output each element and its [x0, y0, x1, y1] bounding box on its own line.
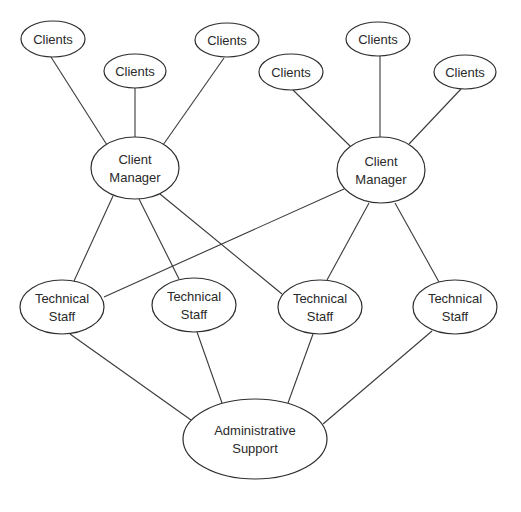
node-label: Support — [232, 441, 278, 456]
node-label: Clients — [445, 65, 485, 80]
node-layer: ClientsClientsClientsClientsClientsClien… — [20, 21, 497, 479]
node-label: Clients — [207, 33, 247, 48]
node-technical-staff-t3: TechnicalStaff — [278, 280, 362, 334]
node-administrative-support-admin: AdministrativeSupport — [183, 399, 327, 479]
node-clients-c6: Clients — [434, 55, 496, 89]
node-clients-c3: Clients — [195, 23, 259, 57]
edge-c3-to-cm1 — [163, 58, 224, 145]
edge-c6-to-cm2 — [409, 89, 461, 144]
edge-c1-to-cm1 — [51, 57, 107, 145]
network-diagram: ClientsClientsClientsClientsClientsClien… — [0, 0, 521, 512]
edge-c4-to-cm2 — [293, 90, 350, 146]
node-label: Manager — [109, 170, 161, 185]
node-label: Technical — [293, 291, 347, 306]
node-label: Technical — [428, 291, 482, 306]
node-clients-c2: Clients — [104, 54, 166, 88]
node-clients-c1: Clients — [21, 21, 85, 57]
node-ellipse — [278, 280, 362, 334]
node-label: Clients — [33, 32, 73, 47]
node-label: Clients — [115, 64, 155, 79]
edge-cm2-to-t3 — [327, 203, 369, 280]
node-label: Technical — [167, 289, 221, 304]
edge-t4-to-admin — [323, 331, 432, 424]
edge-t1-to-admin — [70, 334, 191, 420]
node-label: Administrative — [214, 423, 296, 438]
node-ellipse — [183, 399, 327, 479]
node-ellipse — [413, 280, 497, 334]
edge-cm1-to-t2 — [139, 199, 179, 279]
node-label: Client — [364, 154, 398, 169]
node-clients-c5: Clients — [346, 22, 410, 56]
edge-t2-to-admin — [197, 332, 222, 403]
node-ellipse — [91, 137, 179, 199]
node-label: Technical — [35, 291, 89, 306]
node-ellipse — [20, 280, 104, 334]
node-label: Clients — [271, 65, 311, 80]
node-technical-staff-t1: TechnicalStaff — [20, 280, 104, 334]
node-label: Staff — [181, 307, 208, 322]
edge-cm1-to-t1 — [74, 196, 113, 281]
node-client-manager-cm1: ClientManager — [91, 137, 179, 199]
node-label: Client — [118, 152, 152, 167]
node-label: Staff — [442, 309, 469, 324]
edge-t3-to-admin — [288, 334, 313, 403]
node-client-manager-cm2: ClientManager — [337, 137, 425, 203]
node-ellipse — [152, 278, 236, 332]
node-ellipse — [337, 137, 425, 203]
node-technical-staff-t4: TechnicalStaff — [413, 280, 497, 334]
edge-cm2-to-t4 — [395, 203, 439, 282]
node-label: Staff — [49, 309, 76, 324]
node-clients-c4: Clients — [259, 54, 323, 90]
edge-layer — [51, 56, 461, 424]
node-label: Manager — [355, 172, 407, 187]
node-technical-staff-t2: TechnicalStaff — [152, 278, 236, 332]
node-label: Staff — [307, 309, 334, 324]
node-label: Clients — [358, 32, 398, 47]
